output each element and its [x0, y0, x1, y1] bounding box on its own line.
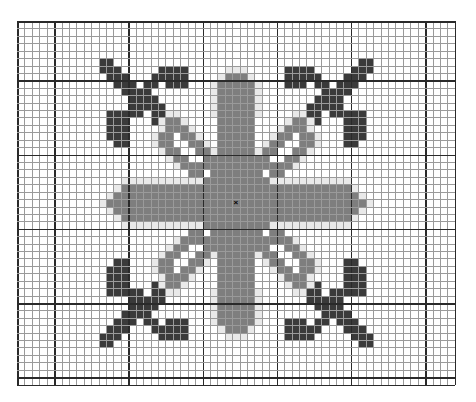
grid-line-horizontal: [17, 303, 455, 305]
grid-line-horizontal: [17, 125, 455, 126]
grid-line-vertical: [47, 21, 48, 385]
grid-line-vertical: [39, 21, 40, 385]
grid-line-vertical: [32, 21, 33, 385]
grid-line-vertical: [343, 21, 344, 385]
grid-line-vertical: [292, 21, 293, 385]
grid-line-vertical: [188, 21, 189, 385]
grid-line-vertical: [395, 21, 396, 385]
grid-line-vertical: [173, 21, 174, 385]
grid-line-horizontal: [17, 310, 455, 311]
grid-line-horizontal: [17, 362, 455, 363]
grid-line-vertical: [358, 21, 359, 385]
grid-line-vertical: [366, 21, 367, 385]
grid-line-horizontal: [17, 258, 455, 259]
grid-line-horizontal: [17, 177, 455, 178]
grid-line-vertical: [54, 21, 56, 385]
grid-line-horizontal: [17, 325, 455, 326]
grid-line-vertical: [381, 21, 382, 385]
grid-line-horizontal: [17, 333, 455, 334]
grid-line-horizontal: [17, 21, 455, 23]
grid-line-horizontal: [17, 51, 455, 52]
grid-line-horizontal: [17, 88, 455, 89]
grid-line-horizontal: [17, 266, 455, 267]
grid-line-vertical: [418, 21, 419, 385]
grid-line-horizontal: [17, 273, 455, 274]
grid-line-vertical: [425, 21, 427, 385]
grid-line-vertical: [121, 21, 122, 385]
grid-line-vertical: [84, 21, 85, 385]
grid-line-vertical: [373, 21, 374, 385]
grid-line-horizontal: [17, 103, 455, 104]
grid-line-horizontal: [17, 214, 455, 215]
grid-line-vertical: [62, 21, 63, 385]
grid-line-vertical: [128, 21, 130, 385]
grid-line-vertical: [180, 21, 181, 385]
grid-line-vertical: [106, 21, 107, 385]
grid-line-vertical: [17, 21, 19, 385]
grid-line-vertical: [403, 21, 404, 385]
grid-line-vertical: [136, 21, 137, 385]
grid-line-vertical: [336, 21, 337, 385]
grid-line-horizontal: [17, 221, 455, 222]
grid-line-horizontal: [17, 347, 455, 348]
grid-line-horizontal: [17, 147, 455, 148]
grid-line-horizontal: [17, 169, 455, 170]
grid-line-horizontal: [17, 355, 455, 356]
grid-line-horizontal: [17, 385, 455, 387]
grid-line-vertical: [247, 21, 248, 385]
grid-line-horizontal: [17, 132, 455, 133]
grid-line-horizontal: [17, 155, 455, 157]
grid-line-horizontal: [17, 184, 455, 185]
grid-line-vertical: [24, 21, 25, 385]
grid-line-vertical: [277, 21, 279, 385]
grid-line-vertical: [299, 21, 300, 385]
grid-line-vertical: [455, 21, 457, 385]
grid-line-vertical: [151, 21, 152, 385]
center-mark-icon: ×: [232, 199, 239, 206]
grid-line-vertical: [165, 21, 166, 385]
grid-line-horizontal: [17, 36, 455, 37]
grid-line-vertical: [388, 21, 389, 385]
grid-line-vertical: [440, 21, 441, 385]
grid-line-vertical: [284, 21, 285, 385]
grid-line-vertical: [113, 21, 114, 385]
grid-line-horizontal: [17, 251, 455, 252]
grid-line-vertical: [269, 21, 270, 385]
grid-line-vertical: [240, 21, 241, 385]
grid-line-horizontal: [17, 43, 455, 44]
grid-line-vertical: [410, 21, 411, 385]
grid-line-vertical: [99, 21, 100, 385]
grid-line-vertical: [143, 21, 144, 385]
grid-line-horizontal: [17, 80, 455, 82]
grid-line-horizontal: [17, 377, 455, 379]
grid-line-vertical: [329, 21, 330, 385]
grid-line-horizontal: [17, 229, 455, 231]
grid-line-vertical: [433, 21, 434, 385]
grid-line-horizontal: [17, 162, 455, 163]
grid-line-horizontal: [17, 110, 455, 111]
grid-line-vertical: [158, 21, 159, 385]
grid-line-vertical: [91, 21, 92, 385]
grid-line-vertical: [314, 21, 315, 385]
grid-line-horizontal: [17, 192, 455, 193]
grid-line-horizontal: [17, 281, 455, 282]
grid-line-vertical: [306, 21, 307, 385]
grid-line-horizontal: [17, 58, 455, 59]
grid-line-horizontal: [17, 236, 455, 237]
grid-line-vertical: [76, 21, 77, 385]
grid-line-horizontal: [17, 244, 455, 245]
grid-line-horizontal: [17, 140, 455, 141]
grid-line-vertical: [203, 21, 205, 385]
grid-line-vertical: [225, 21, 226, 385]
grid-line-horizontal: [17, 117, 455, 118]
grid-line-horizontal: [17, 28, 455, 29]
grid-line-vertical: [217, 21, 218, 385]
grid-line-horizontal: [17, 296, 455, 297]
grid-line-vertical: [195, 21, 196, 385]
grid-line-horizontal: [17, 66, 455, 67]
cross-stitch-chart: ×: [17, 21, 455, 385]
grid-line-vertical: [69, 21, 70, 385]
grid-line-horizontal: [17, 288, 455, 289]
grid-line-horizontal: [17, 340, 455, 341]
grid-line-horizontal: [17, 370, 455, 371]
